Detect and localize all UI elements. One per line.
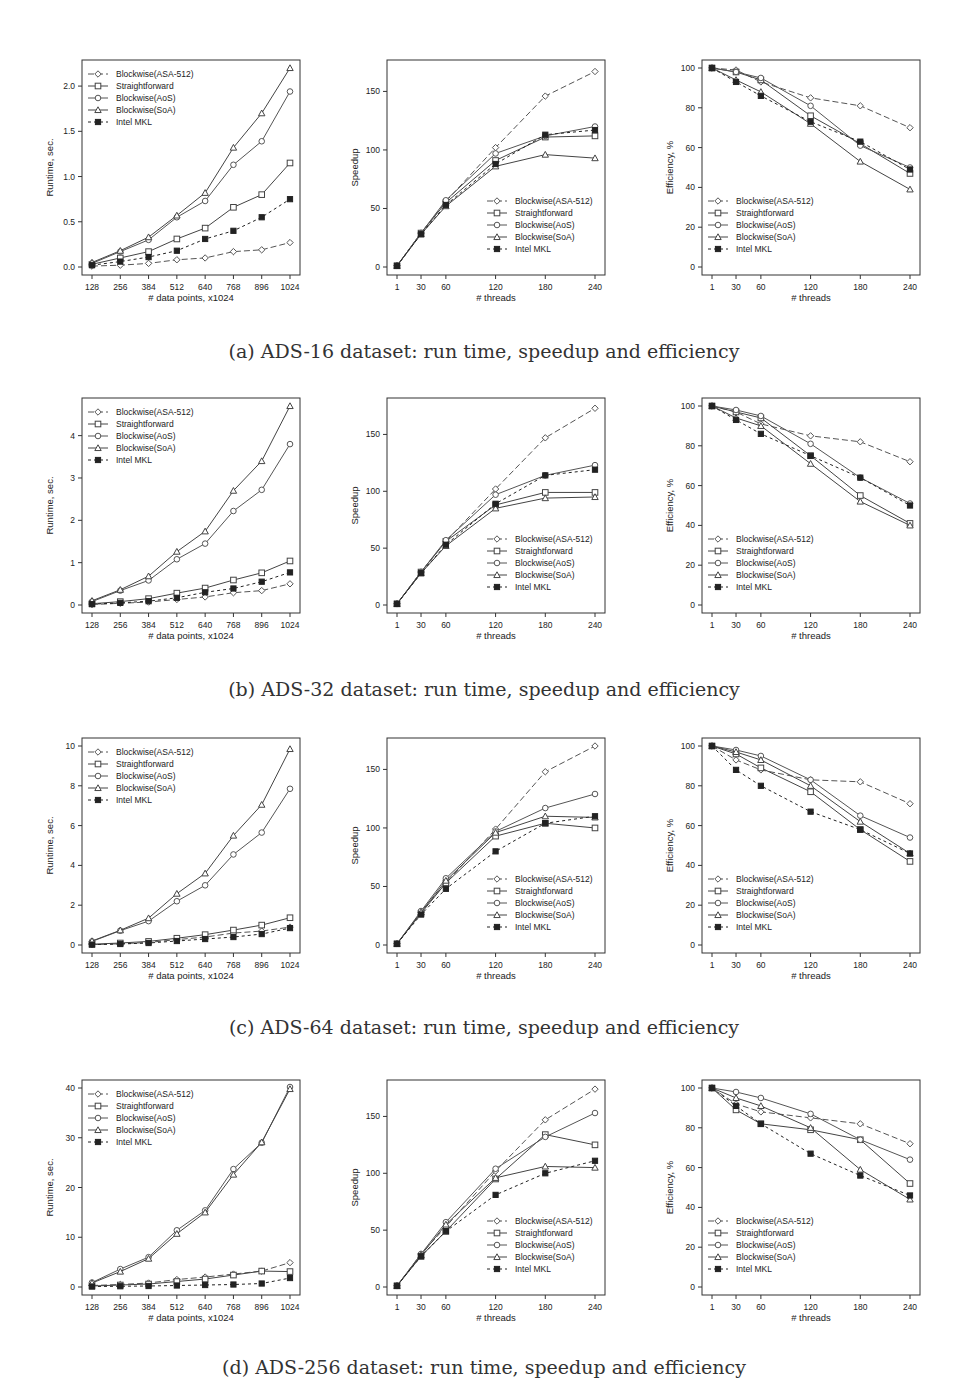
filled-square-marker-icon [858, 139, 863, 144]
x-tick-label: 384 [141, 620, 155, 630]
circle-marker-icon [715, 222, 721, 228]
x-tick-label: 384 [141, 282, 155, 292]
filled-square-marker-icon [733, 417, 738, 422]
filled-square-marker-icon [174, 1283, 179, 1288]
square-marker-icon [95, 761, 101, 767]
filled-square-marker-icon [494, 584, 499, 589]
series-filled-square [709, 1085, 912, 1198]
x-tick-label: 384 [141, 960, 155, 970]
filled-square-marker-icon [95, 457, 100, 462]
diamond-marker-icon [907, 801, 913, 807]
x-axis-label: # data points, x1024 [148, 1312, 234, 1323]
legend-label: Blockwise(ASA-512) [116, 1089, 194, 1099]
y-tick-label: 100 [366, 486, 380, 496]
circle-marker-icon [202, 541, 208, 547]
plot-frame [387, 738, 605, 953]
series-filled-square [709, 743, 912, 856]
circle-marker-icon [494, 560, 500, 566]
x-tick-label: 120 [803, 960, 817, 970]
x-tick-label: 180 [853, 960, 867, 970]
y-tick-label: 40 [686, 182, 696, 192]
legend-label: Blockwise(SoA) [736, 570, 796, 580]
circle-marker-icon [287, 786, 293, 792]
y-axis-label: Runtime, sec. [44, 138, 55, 196]
y-tick-label: 40 [686, 860, 696, 870]
circle-marker-icon [808, 441, 814, 447]
y-axis-label: Efficiency, % [664, 140, 675, 194]
square-marker-icon [715, 888, 721, 894]
diamond-marker-icon [95, 1091, 101, 1097]
circle-marker-icon [907, 835, 913, 841]
square-marker-icon [231, 927, 237, 933]
diamond-marker-icon [715, 536, 721, 542]
square-marker-icon [715, 1230, 721, 1236]
filled-square-marker-icon [808, 453, 813, 458]
legend-label: Blockwise(AoS) [736, 898, 796, 908]
y-tick-label: 40 [686, 1202, 696, 1212]
x-tick-label: 256 [113, 620, 127, 630]
x-tick-label: 120 [803, 282, 817, 292]
y-tick-label: 100 [366, 1168, 380, 1178]
filled-square-marker-icon [443, 542, 448, 547]
y-tick-label: 0 [690, 940, 695, 950]
x-tick-label: 896 [255, 1302, 269, 1312]
chart-b-speedup: 05010015013060120180240# threadsSpeedupB… [345, 388, 615, 654]
filled-square-marker-icon [858, 475, 863, 480]
circle-marker-icon [542, 805, 548, 811]
x-tick-label: 180 [538, 960, 552, 970]
legend-label: Intel MKL [736, 582, 772, 592]
filled-square-marker-icon [89, 942, 94, 947]
x-tick-label: 640 [198, 960, 212, 970]
triangle-marker-icon [287, 403, 293, 409]
y-tick-label: 0 [70, 600, 75, 610]
y-tick-label: 100 [681, 63, 695, 73]
plot-frame [82, 1080, 300, 1295]
chart-a-efficiency: 02040608010013060120180240# threadsEffic… [660, 50, 930, 316]
legend-label: Blockwise(SoA) [116, 1125, 176, 1135]
filled-square-marker-icon [231, 1282, 236, 1287]
x-tick-label: 256 [113, 1302, 127, 1312]
legend-label: Straightforward [515, 886, 573, 896]
y-axis-label: Runtime, sec. [44, 476, 55, 534]
filled-square-marker-icon [89, 602, 94, 607]
x-axis-label: # threads [476, 970, 516, 981]
diamond-marker-icon [542, 769, 548, 775]
series-triangle [709, 1085, 913, 1202]
diamond-marker-icon [592, 68, 598, 74]
x-tick-label: 60 [441, 960, 451, 970]
filled-square-marker-icon [146, 254, 151, 259]
diamond-marker-icon [494, 876, 500, 882]
circle-marker-icon [259, 138, 265, 144]
legend-label: Intel MKL [736, 1264, 772, 1274]
y-axis-label: Speedup [349, 148, 360, 186]
square-marker-icon [715, 210, 721, 216]
y-tick-label: 50 [371, 1225, 381, 1235]
y-tick-label: 20 [686, 900, 696, 910]
legend-label: Intel MKL [515, 1264, 551, 1274]
filled-square-marker-icon [709, 1085, 714, 1090]
series-circle [89, 786, 293, 944]
series-circle [394, 791, 598, 946]
filled-square-marker-icon [443, 886, 448, 891]
x-tick-label: 120 [803, 620, 817, 630]
y-tick-label: 60 [686, 143, 696, 153]
legend-label: Blockwise(ASA-512) [515, 1216, 593, 1226]
diamond-marker-icon [287, 239, 293, 245]
square-marker-icon [95, 83, 101, 89]
circle-marker-icon [174, 556, 180, 562]
filled-square-marker-icon [89, 1284, 94, 1289]
filled-square-marker-icon [174, 248, 179, 253]
filled-square-marker-icon [493, 1192, 498, 1197]
filled-square-marker-icon [418, 1254, 423, 1259]
square-marker-icon [808, 789, 814, 795]
chart-c-efficiency: 02040608010013060120180240# threadsEffic… [660, 728, 930, 994]
legend-label: Blockwise(SoA) [736, 232, 796, 242]
square-marker-icon [231, 577, 237, 583]
diamond-marker-icon [592, 743, 598, 749]
y-tick-label: 150 [366, 1111, 380, 1121]
x-tick-label: 240 [903, 282, 917, 292]
diamond-marker-icon [202, 255, 208, 261]
y-tick-label: 100 [681, 401, 695, 411]
filled-square-marker-icon [146, 1283, 151, 1288]
diamond-marker-icon [758, 1109, 764, 1115]
